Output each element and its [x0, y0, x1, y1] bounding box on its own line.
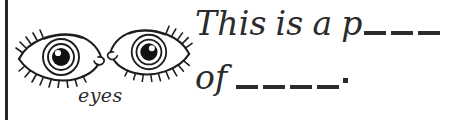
blank-dash	[418, 31, 440, 35]
blank-dash	[290, 85, 312, 89]
eyes-illustration	[14, 22, 192, 88]
sentence-word: a	[312, 6, 332, 42]
sentence-word-prefix: p	[341, 6, 362, 42]
worksheet-card: eyes This is a p of	[0, 0, 462, 120]
blank-dash	[391, 31, 413, 35]
blank-dash	[364, 31, 386, 35]
eyes-caption-label: eyes	[78, 84, 198, 106]
eye-illustration-left	[14, 26, 110, 88]
fill-in-blank-line2[interactable]	[236, 85, 339, 95]
sentence-line-2: of	[195, 60, 348, 96]
sentence-word: of	[195, 60, 227, 96]
blank-dash	[263, 85, 285, 89]
sentence-word: is	[276, 6, 304, 42]
sentence-period	[343, 78, 348, 89]
eye-right-icon	[102, 22, 194, 82]
sentence-word: This	[195, 6, 267, 42]
blank-dash	[236, 85, 258, 89]
eye-illustration-right	[102, 22, 194, 82]
sentence-block: This is a p of	[195, 2, 457, 118]
left-margin-rule	[5, 0, 8, 120]
fill-in-blank-line1[interactable]	[364, 31, 440, 41]
sentence-line-1: This is a p	[195, 6, 440, 42]
blank-dash	[317, 85, 339, 89]
eye-left-icon	[14, 26, 110, 88]
